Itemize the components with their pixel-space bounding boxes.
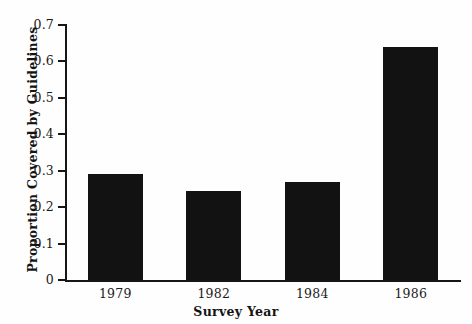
y-tick-label-3: 0.3 [0, 163, 54, 178]
bar-1982 [186, 191, 241, 280]
x-tick-label-1979: 1979 [75, 286, 155, 301]
bar-1986 [383, 47, 438, 280]
y-tick-label-7: 0.7 [0, 17, 54, 32]
y-tick-label-4: 0.4 [0, 126, 54, 141]
y-tick-label-1: 0.1 [0, 236, 54, 251]
y-tick-label-6: 0.6 [0, 53, 54, 68]
bar-1979 [88, 174, 143, 280]
y-tick-label-2: 0.2 [0, 199, 54, 214]
bar-chart: Proportion Covered by Guidelines 0 0.1 0… [0, 0, 472, 324]
x-tick-label-1984: 1984 [272, 286, 352, 301]
y-tick-label-5: 0.5 [0, 90, 54, 105]
x-tick-label-1986: 1986 [371, 286, 451, 301]
x-axis-spine [65, 280, 461, 282]
plot-area [66, 25, 460, 280]
bar-1984 [285, 182, 340, 280]
y-tick-label-0: 0 [0, 272, 54, 287]
x-axis-title: Survey Year [0, 304, 472, 319]
x-tick-label-1982: 1982 [174, 286, 254, 301]
